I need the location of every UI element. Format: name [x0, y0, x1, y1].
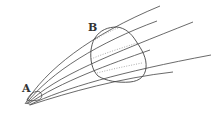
- dotted-segments: [91, 28, 142, 73]
- flow-tube-diagram: A B: [0, 0, 224, 120]
- label-b: B: [88, 21, 97, 34]
- trajectory-line-3: [27, 22, 193, 104]
- label-a: A: [21, 82, 31, 95]
- trajectory-line-5: [29, 55, 211, 105]
- dotted-segment-3: [97, 63, 142, 73]
- trajectory-lines: [25, 6, 211, 105]
- dotted-segment-2: [91, 43, 137, 59]
- trajectory-line-6: [30, 72, 173, 105]
